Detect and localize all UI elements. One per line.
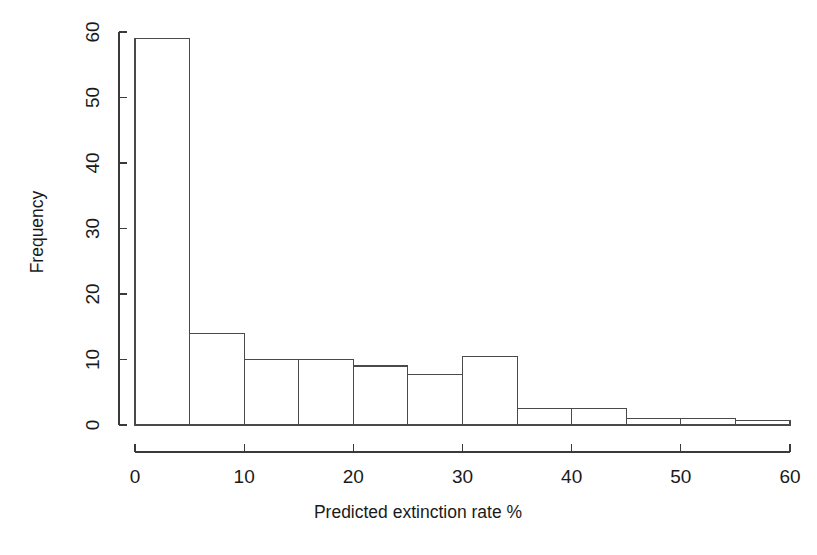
plot-canvas: 0102030405060 0102030405060 Predicted ex… (0, 0, 817, 555)
x-tick-label: 10 (234, 466, 255, 487)
y-axis-title: Frequency (27, 190, 47, 273)
histogram-bar (517, 409, 572, 425)
histogram-bar (681, 418, 736, 425)
x-tick-label: 60 (779, 466, 800, 487)
figure-background (0, 0, 817, 555)
x-axis-title: Predicted extinction rate % (314, 502, 522, 522)
x-tick-label: 50 (670, 466, 691, 487)
histogram-bar (299, 360, 354, 426)
y-tick-label: 60 (82, 21, 103, 42)
histogram-bar (244, 360, 299, 426)
histogram-bar (626, 418, 681, 425)
histogram-bar (572, 409, 627, 425)
y-tick-label: 40 (82, 152, 103, 173)
histogram-bar (353, 366, 408, 425)
histogram-bar (190, 333, 245, 425)
histogram-bar (735, 420, 790, 425)
x-tick-label: 40 (561, 466, 582, 487)
histogram-figure: 0102030405060 0102030405060 Predicted ex… (0, 0, 817, 555)
y-tick-label: 10 (82, 349, 103, 370)
y-tick-label: 30 (82, 218, 103, 239)
histogram-bar (408, 375, 463, 425)
y-tick-label: 0 (82, 420, 103, 431)
x-tick-label: 30 (452, 466, 473, 487)
x-tick-label: 0 (130, 466, 141, 487)
y-tick-label: 50 (82, 87, 103, 108)
histogram-bar (135, 39, 190, 425)
histogram-bar (463, 356, 518, 425)
x-tick-label: 20 (343, 466, 364, 487)
y-tick-label: 20 (82, 283, 103, 304)
